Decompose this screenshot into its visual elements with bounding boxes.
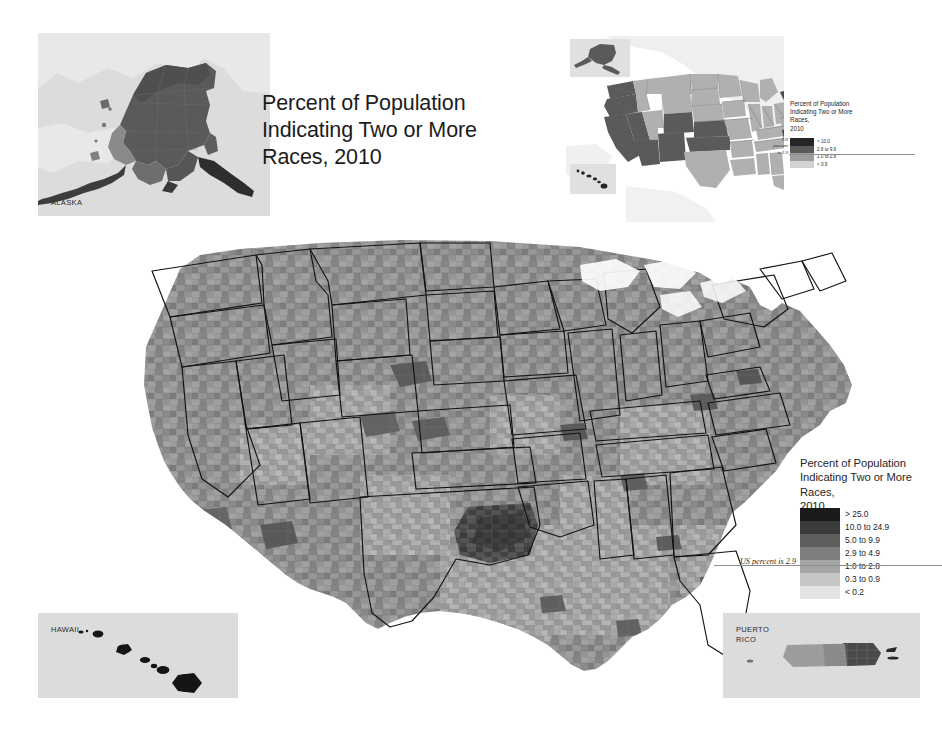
hawaii-inset-label: HAWAII <box>51 625 79 635</box>
inset-legend-title: Percent of Population Indicating Two or … <box>790 100 915 133</box>
state-inset-hawaii-map <box>570 164 616 194</box>
puerto-rico-inset-label: PUERTO RICO <box>736 625 769 645</box>
legend-swatch <box>800 534 840 547</box>
state-inset-hawaii-panel <box>570 164 616 194</box>
legend-item[interactable]: 0.3 to 0.9 <box>800 573 889 586</box>
legend-swatch <box>790 161 814 169</box>
legend-item[interactable]: 2.9 to 9.9 <box>790 146 836 154</box>
legend-label: < 0.2 <box>845 586 864 599</box>
map-figure: ALASKA Percent of Population Indicating … <box>0 0 942 734</box>
inset-legend-us-rule <box>789 154 915 155</box>
state-inset-map-group <box>566 36 784 222</box>
legend-item[interactable]: < 0.9 <box>790 161 836 169</box>
legend-label: > 10.0 <box>817 138 830 146</box>
legend-item[interactable]: 5.0 to 9.9 <box>800 534 889 547</box>
legend-label: 2.9 to 4.9 <box>845 547 880 560</box>
alaska-inset-panel: ALASKA <box>38 33 270 216</box>
legend-swatch <box>800 508 840 521</box>
legend-swatch <box>800 560 840 573</box>
state-inset-alaska-map <box>570 39 630 77</box>
main-legend-title: Percent of Population Indicating Two or … <box>800 456 940 514</box>
legend-item[interactable]: > 10.0 <box>790 138 836 146</box>
legend-swatch <box>790 138 814 146</box>
puerto-rico-inset-panel: PUERTO RICO <box>723 613 920 698</box>
legend-label: 0.3 to 0.9 <box>845 573 880 586</box>
legend-swatch <box>800 573 840 586</box>
legend-item[interactable]: 2.9 to 4.9 <box>800 547 889 560</box>
legend-swatch <box>800 547 840 560</box>
legend-swatch <box>790 146 814 154</box>
main-legend-us-rule <box>714 565 942 566</box>
legend-label: > 25.0 <box>845 508 869 521</box>
legend-item[interactable]: 10.0 to 24.9 <box>800 521 889 534</box>
state-inset-alaska-panel <box>570 39 630 77</box>
main-legend: Percent of Population Indicating Two or … <box>800 456 940 606</box>
hawaii-inset-panel: HAWAII <box>38 613 238 698</box>
legend-label: < 0.9 <box>817 161 827 169</box>
legend-label: 2.9 to 9.9 <box>817 146 836 154</box>
legend-swatch <box>800 521 840 534</box>
legend-item[interactable]: > 25.0 <box>800 508 889 521</box>
inset-legend: Percent of Population Indicating Two or … <box>790 100 925 192</box>
legend-label: 5.0 to 9.9 <box>845 534 880 547</box>
alaska-inset-label: ALASKA <box>51 198 82 208</box>
legend-swatch <box>800 586 840 599</box>
legend-item[interactable]: 1.0 to 2.8 <box>800 560 889 573</box>
alaska-inset-map <box>38 33 270 216</box>
legend-label: 10.0 to 24.9 <box>845 521 889 534</box>
legend-label: 1.0 to 2.8 <box>845 560 880 573</box>
legend-item[interactable]: < 0.2 <box>800 586 889 599</box>
inset-legend-us-note: US percent is 2.9 <box>758 137 788 156</box>
page-title: Percent of Population Indicating Two or … <box>262 90 532 171</box>
main-legend-swatches: > 25.0 10.0 to 24.9 5.0 to 9.9 2.9 to 4.… <box>800 508 889 599</box>
